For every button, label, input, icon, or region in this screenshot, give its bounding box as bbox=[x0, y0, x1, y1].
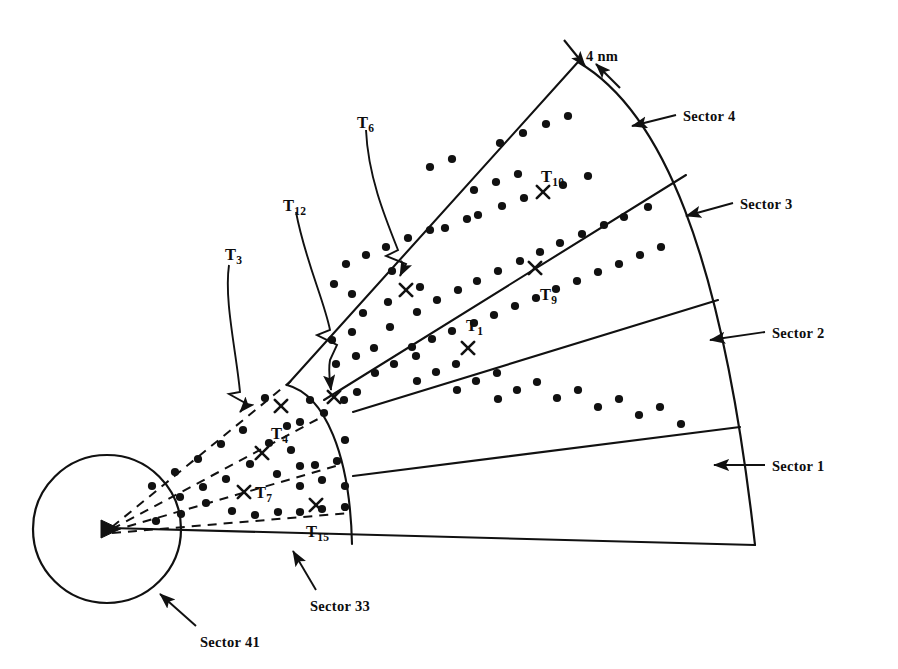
detection-dot bbox=[636, 251, 644, 259]
detection-dot bbox=[615, 260, 623, 268]
detection-dot bbox=[261, 394, 269, 402]
detection-dot bbox=[516, 257, 524, 265]
detection-dot bbox=[362, 251, 370, 259]
target-label-base: T bbox=[283, 196, 294, 215]
target-label-subscript: 6 bbox=[368, 122, 374, 134]
target-label-subscript: 3 bbox=[236, 254, 242, 266]
target-label-subscript: 15 bbox=[317, 531, 329, 543]
detection-dot bbox=[148, 482, 156, 490]
target-label-base: T bbox=[466, 316, 477, 335]
detection-dot bbox=[296, 482, 304, 490]
target-marker-t3 bbox=[275, 400, 287, 412]
label-t12: T12 bbox=[283, 196, 306, 217]
label-t4: T4 bbox=[271, 424, 288, 445]
detection-dot bbox=[413, 377, 421, 385]
leader-T6 bbox=[366, 130, 406, 276]
detection-dot bbox=[388, 267, 396, 275]
target-markers-layer bbox=[238, 186, 549, 511]
detection-dot bbox=[494, 395, 502, 403]
detection-dot bbox=[287, 446, 295, 454]
detection-dot bbox=[311, 461, 319, 469]
diagram-svg bbox=[0, 0, 898, 669]
detection-dot bbox=[152, 517, 160, 525]
detection-dot bbox=[412, 352, 420, 360]
detection-dot bbox=[274, 508, 282, 516]
detection-dot bbox=[342, 260, 350, 268]
detection-dot bbox=[474, 211, 482, 219]
detection-dot bbox=[498, 202, 506, 210]
detection-dot bbox=[533, 378, 541, 386]
detection-dot bbox=[573, 277, 581, 285]
detection-dot bbox=[384, 298, 392, 306]
detection-dot bbox=[296, 508, 304, 516]
detection-dot bbox=[584, 172, 592, 180]
detection-dot bbox=[620, 213, 628, 221]
detection-dot bbox=[352, 352, 360, 360]
outer-arc bbox=[578, 62, 755, 545]
detection-dot bbox=[677, 420, 685, 428]
target-leader-lines bbox=[228, 130, 406, 412]
detection-dot bbox=[382, 243, 390, 251]
detection-dot bbox=[519, 129, 527, 137]
label-t9: T9 bbox=[540, 285, 557, 306]
detection-dot bbox=[493, 369, 501, 377]
target-label-subscript: 12 bbox=[294, 205, 306, 217]
detection-dot bbox=[408, 343, 416, 351]
target-marker-t9 bbox=[529, 262, 541, 274]
target-label-base: T bbox=[255, 483, 266, 502]
four-nm-label: 4 nm bbox=[586, 48, 618, 65]
detection-dot bbox=[511, 302, 519, 310]
target-label-base: T bbox=[225, 245, 236, 264]
detection-dot bbox=[490, 311, 498, 319]
detection-dot bbox=[532, 294, 540, 302]
detection-dot bbox=[514, 170, 522, 178]
detection-dot bbox=[428, 335, 436, 343]
target-label-base: T bbox=[540, 285, 551, 304]
detection-dot bbox=[371, 369, 379, 377]
target-marker-t1 bbox=[462, 342, 474, 354]
detection-dot bbox=[246, 460, 254, 468]
detection-dot bbox=[513, 386, 521, 394]
detection-dot bbox=[452, 360, 460, 368]
detection-dot bbox=[320, 409, 328, 417]
detection-dot bbox=[202, 499, 210, 507]
detection-dot bbox=[217, 440, 225, 448]
label-t6: T6 bbox=[357, 113, 374, 134]
detection-dot bbox=[359, 309, 367, 317]
detection-dot bbox=[296, 462, 304, 470]
target-marker-t15 bbox=[310, 499, 322, 511]
target-label-base: T bbox=[541, 167, 552, 186]
detection-dot bbox=[353, 388, 361, 396]
detection-dot bbox=[386, 323, 394, 331]
target-label-subscript: 7 bbox=[266, 492, 272, 504]
detection-dot bbox=[594, 268, 602, 276]
label-t15: T15 bbox=[306, 522, 329, 543]
detection-dot bbox=[432, 368, 440, 376]
detection-dot bbox=[176, 493, 184, 501]
detection-dot bbox=[416, 283, 424, 291]
detection-dot bbox=[556, 239, 564, 247]
target-marker-t7 bbox=[238, 486, 250, 498]
detection-dot bbox=[496, 139, 504, 147]
target-label-subscript: 9 bbox=[551, 294, 557, 306]
detection-dot bbox=[448, 155, 456, 163]
sector-1-lower-ray bbox=[110, 528, 755, 545]
detection-dot bbox=[370, 344, 378, 352]
detection-dot bbox=[494, 267, 502, 275]
detection-dot bbox=[553, 394, 561, 402]
detection-dot bbox=[413, 308, 421, 316]
detection-dot bbox=[273, 470, 281, 478]
target-label-subscript: 10 bbox=[552, 176, 564, 188]
detection-dot bbox=[463, 215, 471, 223]
label-sector-3: Sector 3 bbox=[740, 196, 792, 213]
detection-dot bbox=[454, 286, 462, 294]
label-sector-4: Sector 4 bbox=[683, 108, 735, 125]
detection-dot bbox=[600, 221, 608, 229]
leader-sector-33 bbox=[293, 551, 316, 590]
sector-2-3-boundary bbox=[353, 300, 718, 412]
leader-T12 bbox=[296, 212, 337, 390]
detection-dot bbox=[296, 418, 304, 426]
detection-dot bbox=[578, 230, 586, 238]
detection-dot bbox=[333, 457, 341, 465]
detection-dot bbox=[390, 360, 398, 368]
